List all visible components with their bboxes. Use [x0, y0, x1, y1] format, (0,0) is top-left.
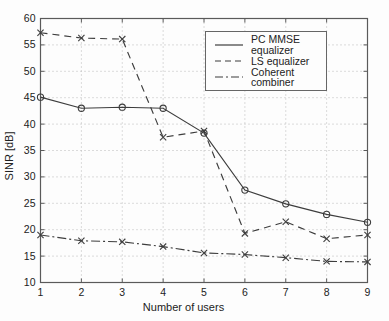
y-tick-label: 15 [24, 250, 36, 262]
y-tick-label: 10 [24, 276, 36, 288]
sinr-vs-users-chart: 1234567891015202530354045505560 SINR [dB… [0, 0, 389, 321]
y-tick-label: 55 [24, 38, 36, 50]
x-tick-label: 8 [324, 286, 330, 298]
y-tick-label: 40 [24, 118, 36, 130]
legend-item-pc-mmse: PC MMSE equalizer [214, 34, 322, 55]
x-tick-label: 1 [38, 286, 44, 298]
dashdot-line-sample-icon [214, 73, 244, 81]
y-tick-label: 20 [24, 223, 36, 235]
y-tick-label: 50 [24, 65, 36, 77]
legend-label-coherent: Coherent combiner [251, 67, 322, 88]
y-tick-label: 30 [24, 170, 36, 182]
solid-line-sample-icon [214, 41, 244, 49]
y-tick-label: 60 [24, 12, 36, 24]
legend-label-pc-mmse: PC MMSE equalizer [251, 34, 322, 55]
legend: PC MMSE equalizer LS equalizer Coherent … [205, 31, 327, 91]
x-tick-label: 7 [283, 286, 289, 298]
plot-area: 1234567891015202530354045505560 [0, 0, 389, 321]
y-tick-label: 45 [24, 91, 36, 103]
legend-label-ls: LS equalizer [251, 56, 309, 67]
y-tick-label: 25 [24, 197, 36, 209]
x-axis-label: Number of users [0, 301, 367, 313]
x-tick-label: 3 [119, 286, 125, 298]
x-tick-label: 5 [201, 286, 207, 298]
x-tick-label: 4 [160, 286, 166, 298]
x-tick-label: 2 [78, 286, 84, 298]
series-line-0 [41, 97, 368, 222]
legend-item-ls: LS equalizer [214, 56, 322, 67]
y-tick-label: 35 [24, 144, 36, 156]
x-tick-label: 9 [365, 286, 371, 298]
dashed-line-sample-icon [214, 57, 244, 65]
y-axis-label: SINR [dB] [3, 116, 15, 196]
x-tick-label: 6 [242, 286, 248, 298]
legend-item-coherent: Coherent combiner [214, 67, 322, 88]
